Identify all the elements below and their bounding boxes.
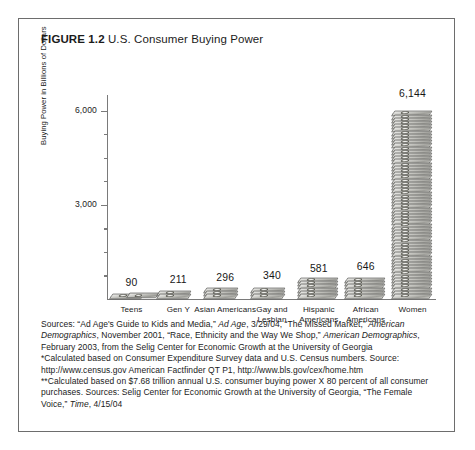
figure-caption: U.S. Consumer Buying Power [108,33,263,45]
chart: Buying Power in Billions of Dollars 3,00… [41,61,436,319]
x-axis-category-label: Women [382,305,444,315]
source-line-2: *Calculated based on Consumer Expenditur… [41,353,437,376]
bar-column: 90 [108,277,154,299]
figure-title: FIGURE 1.2 U.S. Consumer Buying Power [41,33,263,45]
money-stack-icon [391,113,435,299]
money-stack-icon [109,296,153,299]
y-axis-title: Buying Power in Billions of Dollars [39,0,48,145]
banknote-bundle-icon [344,295,388,299]
bar-column: 646 [343,261,389,299]
banknote-bundle-icon [109,295,153,299]
banknote-bundle-icon [156,295,200,299]
y-axis-tick [101,111,108,112]
figure-container: FIGURE 1.2 U.S. Consumer Buying Power Bu… [18,18,455,432]
bar-column: 6,144 [390,88,436,299]
bar-column: 581 [296,263,342,299]
source-line-1: Sources: “Ad Age's Guide to Kids and Med… [41,319,437,353]
bar-value-label: 581 [296,263,342,274]
source-line-3: **Calculated based on $7.68 trillion ann… [41,376,437,410]
x-axis-line [107,299,436,300]
y-axis-tick-label: 6,000 [49,105,97,115]
y-axis-tick-label: 3,000 [49,199,97,209]
y-axis-tick [101,205,108,206]
plot-area: 902112963405816466,144 [108,61,436,299]
money-stack-icon [250,289,294,299]
bar-value-label: 296 [202,272,248,283]
bar-value-label: 646 [343,261,389,272]
bar-value-label: 90 [108,277,154,288]
bar-value-label: 340 [249,270,295,281]
bar-value-label: 6,144 [390,88,436,99]
bar-column: 340 [249,270,295,299]
money-stack-icon [203,289,247,299]
banknote-bundle-icon [250,295,294,299]
figure-number: FIGURE 1.2 [41,33,105,45]
banknote-bundle-icon [297,295,341,299]
banknote-bundle-icon [203,295,247,299]
banknote-bundle-icon [391,295,435,299]
bar-value-label: 211 [155,274,201,285]
money-stack-icon [344,280,388,299]
source-notes: Sources: “Ad Age's Guide to Kids and Med… [41,319,437,410]
money-stack-icon [297,280,341,299]
bar-column: 211 [155,274,201,299]
money-stack-icon [156,293,200,299]
bar-column: 296 [202,272,248,299]
